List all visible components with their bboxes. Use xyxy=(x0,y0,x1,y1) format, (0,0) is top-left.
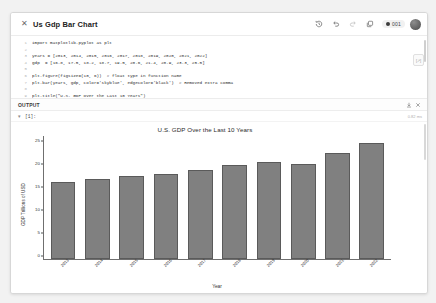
chevron-down-icon[interactable]: ▾ xyxy=(18,113,21,119)
code-scrollbar[interactable] xyxy=(424,40,426,62)
line-number: 1 xyxy=(11,40,32,47)
code-line: 6 plt.figure(figsize=(10, 6)) # float ty… xyxy=(11,73,427,80)
close-icon[interactable] xyxy=(413,100,422,109)
undo-icon[interactable] xyxy=(329,17,343,31)
code-line: 4 gdp = [16.8, 17.5, 18.2, 18.7, 19.5, 2… xyxy=(11,60,427,67)
x-tick-label: 2021 xyxy=(334,258,344,268)
x-tick-label: 2019 xyxy=(266,258,276,268)
x-axis-ticks: 2013201420152016201720182019202020212022 xyxy=(44,259,391,281)
output-scrollbar[interactable] xyxy=(424,124,426,160)
line-number: 5 xyxy=(11,66,32,73)
x-tick-label: 2015 xyxy=(128,258,138,268)
cell-exec-time: 0.82 ms xyxy=(408,114,422,119)
chart-title: U.S. GDP Over the Last 10 Years xyxy=(19,126,391,133)
y-tick: 5 xyxy=(38,230,40,235)
x-tick: 2017 xyxy=(188,259,213,281)
expand-icon[interactable]: [↗] xyxy=(413,54,424,66)
bar xyxy=(188,170,213,259)
code-text: plt.figure(figsize=(10, 6)) # float type… xyxy=(32,73,427,80)
x-tick: 2015 xyxy=(119,259,144,281)
y-tick: 10 xyxy=(35,207,40,212)
x-tick: 2016 xyxy=(154,259,179,281)
x-tick: 2020 xyxy=(291,259,316,281)
line-number: 4 xyxy=(11,60,32,67)
line-number: 8 xyxy=(11,86,32,93)
bar xyxy=(119,176,144,259)
window-header: ✕ Us Gdp Bar Chart 00 xyxy=(11,13,427,36)
chart-output: U.S. GDP Over the Last 10 Years GDP Tril… xyxy=(11,122,427,293)
status-dot-icon xyxy=(386,22,390,26)
line-number: 6 xyxy=(11,73,32,80)
bar xyxy=(222,165,247,259)
code-editor[interactable]: 1 import matplotlib.pyplot as plt 2 3 ye… xyxy=(11,36,427,99)
bar xyxy=(154,174,179,259)
close-icon[interactable]: ✕ xyxy=(19,20,29,28)
x-tick: 2022 xyxy=(359,259,384,281)
x-tick: 2019 xyxy=(257,259,282,281)
y-tick: 25 xyxy=(35,138,40,143)
plot-row: GDP Trillions of USD 0 5 10 15 20 25 201… xyxy=(19,136,391,260)
line-number: 2 xyxy=(11,47,32,54)
x-tick: 2014 xyxy=(85,259,110,281)
code-line: 8 xyxy=(11,86,427,93)
code-line: 5 xyxy=(11,66,427,73)
copy-icon[interactable] xyxy=(363,17,377,31)
output-panel-label: OUTPUT xyxy=(18,102,40,108)
y-tick: 20 xyxy=(35,161,40,166)
line-number: 3 xyxy=(11,53,32,60)
notebook-window: ✕ Us Gdp Bar Chart 00 xyxy=(10,12,428,294)
code-line: 9 plt.title("U.S. GDP Over the Last 10 Y… xyxy=(11,93,427,99)
line-number: 7 xyxy=(11,80,32,87)
bar-series xyxy=(44,136,391,259)
bar xyxy=(257,162,282,259)
x-tick-label: 2020 xyxy=(300,258,310,268)
redo-icon[interactable] xyxy=(346,17,360,31)
y-tick: 0 xyxy=(38,253,40,258)
x-tick-label: 2017 xyxy=(197,258,207,268)
history-icon[interactable] xyxy=(312,17,326,31)
x-tick: 2021 xyxy=(325,259,350,281)
cell-tag: [1]: xyxy=(25,114,36,119)
bar xyxy=(85,179,110,259)
matplotlib-figure: U.S. GDP Over the Last 10 Years GDP Tril… xyxy=(19,124,391,289)
x-tick: 2018 xyxy=(222,259,247,281)
x-axis-label: Year xyxy=(43,284,391,289)
avatar[interactable] xyxy=(410,19,421,30)
code-text: years = [2013, 2014, 2015, 2016, 2017, 2… xyxy=(32,53,427,60)
output-cell-header[interactable]: ▾ [1]: 0.82 ms xyxy=(11,111,427,122)
bar xyxy=(325,153,350,259)
y-axis-label: GDP Trillions of USD xyxy=(19,136,27,260)
code-text: import matplotlib.pyplot as plt xyxy=(32,40,427,47)
line-number: 9 xyxy=(11,93,32,99)
code-line: 3 years = [2013, 2014, 2015, 2016, 2017,… xyxy=(11,53,427,60)
status-badge[interactable]: 001 xyxy=(382,20,405,28)
x-tick-label: 2022 xyxy=(369,258,379,268)
bar xyxy=(51,182,76,259)
plot-area: 2013201420152016201720182019202020212022 xyxy=(43,136,391,260)
page-title: Us Gdp Bar Chart xyxy=(33,20,98,29)
code-text: plt.title("U.S. GDP Over the Last 10 Yea… xyxy=(32,93,427,99)
y-axis-ticks: 0 5 10 15 20 25 xyxy=(27,136,43,260)
x-tick-label: 2013 xyxy=(60,258,70,268)
code-line: 7 plt.bar(years, gdp, color='skyblue', e… xyxy=(11,80,427,87)
x-tick-label: 2016 xyxy=(163,258,173,268)
output-panel-header: OUTPUT xyxy=(11,99,427,111)
bar xyxy=(359,143,384,259)
code-text: gdp = [16.8, 17.5, 18.2, 18.7, 19.5, 20.… xyxy=(32,60,427,67)
code-line: 1 import matplotlib.pyplot as plt xyxy=(11,40,427,47)
bar xyxy=(291,164,316,259)
y-tick: 15 xyxy=(35,184,40,189)
download-icon[interactable] xyxy=(404,100,413,109)
code-text: plt.bar(years, gdp, color='skyblue', edg… xyxy=(32,80,427,87)
code-lines: 1 import matplotlib.pyplot as plt 2 3 ye… xyxy=(11,36,427,99)
x-tick-label: 2018 xyxy=(231,258,241,268)
x-tick: 2013 xyxy=(51,259,76,281)
code-line: 2 xyxy=(11,47,427,54)
status-badge-label: 001 xyxy=(392,21,401,27)
x-tick-label: 2014 xyxy=(94,258,104,268)
